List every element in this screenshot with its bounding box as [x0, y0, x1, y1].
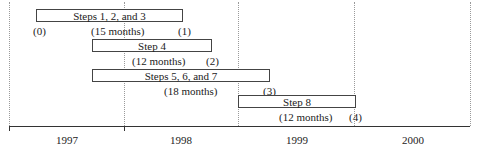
year-label-1999: 1999	[277, 134, 317, 146]
task-bar-steps-1-2-3: Steps 1, 2, and 3	[36, 9, 183, 22]
year-label-1997: 1997	[47, 134, 87, 146]
task-duration: (15 months)	[91, 25, 144, 37]
time-axis	[9, 126, 470, 127]
task-label: Steps 1, 2, and 3	[73, 10, 146, 22]
year-label-1998: 1998	[161, 134, 201, 146]
task-bar-steps-5-6-7: Steps 5, 6, and 7	[92, 69, 270, 82]
milestone-marker-2: (2)	[206, 55, 219, 67]
milestone-marker-4: (4)	[349, 111, 362, 123]
axis-tick	[124, 126, 125, 131]
task-duration: (12 months)	[279, 111, 332, 123]
milestone-marker-0: (0)	[33, 25, 46, 37]
timeline-diagram: Steps 1, 2, and 3 (0) (15 months) (1) St…	[0, 0, 478, 149]
gridline-1997-start	[9, 2, 10, 126]
task-duration: (18 months)	[164, 85, 217, 97]
task-label: Steps 5, 6, and 7	[145, 70, 218, 82]
task-label: Step 8	[283, 96, 311, 108]
year-label-2000: 2000	[393, 134, 433, 146]
task-label: Step 4	[138, 40, 166, 52]
gridline-2000-end	[470, 2, 471, 126]
task-bar-step-4: Step 4	[92, 39, 212, 52]
axis-tick	[9, 126, 10, 131]
milestone-marker-1: (1)	[178, 25, 191, 37]
task-bar-step-8: Step 8	[238, 95, 356, 108]
task-duration: (12 months)	[132, 55, 185, 67]
